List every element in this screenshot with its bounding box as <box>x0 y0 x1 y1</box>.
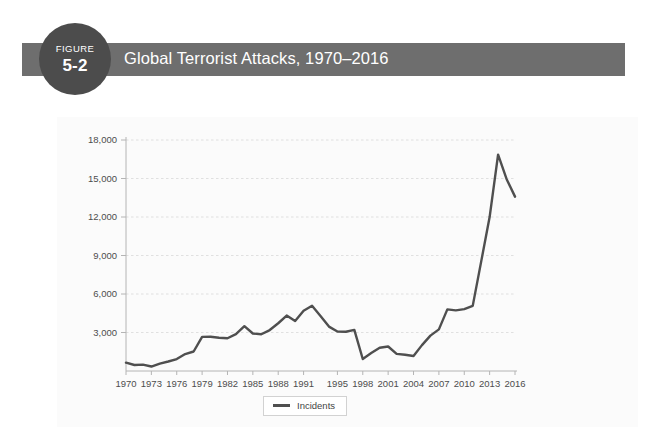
svg-text:2010: 2010 <box>454 378 475 389</box>
svg-text:1982: 1982 <box>217 378 238 389</box>
svg-text:12,000: 12,000 <box>88 211 117 222</box>
line-chart: 3,0006,0009,00012,00015,00018,000 197019… <box>57 117 638 427</box>
figure-title: Global Terrorist Attacks, 1970–2016 <box>124 49 389 68</box>
svg-text:1973: 1973 <box>141 378 162 389</box>
figure-number-badge: FIGURE 5-2 <box>39 23 111 95</box>
figure-badge-word: FIGURE <box>56 44 94 54</box>
legend-label-incidents: Incidents <box>297 400 335 411</box>
svg-text:1995: 1995 <box>327 378 348 389</box>
chart-panel: 3,0006,0009,00012,00015,00018,000 197019… <box>57 117 638 427</box>
svg-text:1979: 1979 <box>192 378 213 389</box>
svg-text:15,000: 15,000 <box>88 173 117 184</box>
svg-text:9,000: 9,000 <box>93 250 117 261</box>
svg-text:2016: 2016 <box>504 378 525 389</box>
x-axis-labels: 1970197319761979198219851988199119951998… <box>115 378 525 389</box>
svg-text:1998: 1998 <box>352 378 373 389</box>
chart-legend: Incidents <box>263 396 347 416</box>
svg-text:6,000: 6,000 <box>93 288 117 299</box>
legend-swatch-incidents <box>273 404 290 407</box>
series-line-incidents <box>126 155 515 367</box>
svg-text:1988: 1988 <box>268 378 289 389</box>
axis-ticks <box>121 140 515 375</box>
y-axis-labels: 3,0006,0009,00012,00015,00018,000 <box>88 134 117 338</box>
svg-text:1976: 1976 <box>166 378 187 389</box>
svg-text:1970: 1970 <box>115 378 136 389</box>
figure-badge-number: 5-2 <box>62 57 87 74</box>
svg-text:3,000: 3,000 <box>93 327 117 338</box>
svg-text:2013: 2013 <box>479 378 500 389</box>
grid-lines <box>126 140 515 333</box>
svg-text:2007: 2007 <box>428 378 449 389</box>
svg-text:18,000: 18,000 <box>88 134 117 145</box>
svg-text:1985: 1985 <box>242 378 263 389</box>
figure-header: FIGURE 5-2 Global Terrorist Attacks, 197… <box>0 0 647 100</box>
svg-text:2004: 2004 <box>403 378 424 389</box>
svg-text:1991: 1991 <box>293 378 314 389</box>
svg-text:2001: 2001 <box>378 378 399 389</box>
